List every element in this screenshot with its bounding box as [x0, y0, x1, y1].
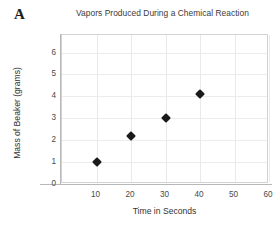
y-tick-label: 1: [34, 157, 56, 166]
plot-area: [61, 34, 268, 183]
x-axis-line: [40, 184, 272, 185]
x-tick-label: 20: [115, 190, 145, 199]
gridline-horizontal: [62, 140, 267, 141]
y-axis-line: [60, 34, 61, 184]
y-tick-label: 0: [34, 179, 56, 188]
data-point: [195, 89, 205, 99]
gridline-horizontal: [62, 74, 267, 75]
gridline-vertical: [269, 35, 270, 182]
panel-label: A: [14, 6, 25, 23]
gridline-vertical: [166, 35, 167, 182]
gridline-horizontal: [62, 53, 267, 54]
chart-title: Vapors Produced During a Chemical Reacti…: [55, 8, 270, 18]
y-tick-label: 4: [34, 91, 56, 100]
y-tick-label: 6: [34, 47, 56, 56]
x-tick-label: 30: [150, 190, 180, 199]
y-axis-title: Mass of Beaker (grams): [12, 48, 22, 178]
y-tick-label: 2: [34, 135, 56, 144]
x-tick-label: 10: [81, 190, 111, 199]
x-axis-tick-labels: 102030405060: [0, 190, 277, 204]
y-tick-label: 5: [34, 69, 56, 78]
x-tick-label: 40: [184, 190, 214, 199]
x-tick-label: 60: [253, 190, 277, 199]
x-tick-label: 50: [219, 190, 249, 199]
chart-figure: A Vapors Produced During a Chemical Reac…: [0, 0, 277, 225]
gridline-vertical: [131, 35, 132, 182]
data-point: [92, 157, 102, 167]
gridline-vertical: [200, 35, 201, 182]
gridline-vertical: [235, 35, 236, 182]
y-tick-label: 3: [34, 113, 56, 122]
data-point: [161, 113, 171, 123]
gridline-horizontal: [62, 96, 267, 97]
x-axis-title: Time in Seconds: [61, 206, 268, 216]
